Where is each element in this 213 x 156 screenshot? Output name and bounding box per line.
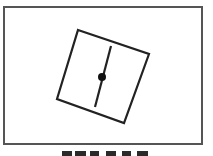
diagram-figure (0, 0, 213, 156)
pivot-dot (98, 73, 106, 81)
figure-caption-clipped (0, 150, 213, 156)
caption-text-fragment (60, 150, 152, 156)
diagram-canvas (0, 0, 213, 156)
